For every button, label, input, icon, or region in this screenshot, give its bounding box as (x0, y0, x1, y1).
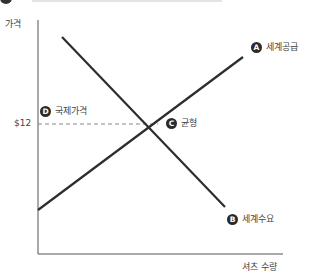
badge-b-icon: B (227, 214, 238, 225)
supply-label: A세계공급 (251, 42, 298, 53)
badge-c-icon: C (166, 118, 177, 129)
y-tick-12: $12 (14, 118, 31, 129)
equilibrium-label: C균형 (166, 118, 197, 129)
supply-line (38, 57, 243, 210)
demand-label: B세계수요 (227, 214, 274, 225)
badge-a-icon: A (251, 42, 262, 53)
world-price-label: D국제가격 (40, 106, 87, 117)
y-axis-label: 가격 (5, 19, 21, 30)
x-axis-label: 셔츠 수량 (242, 262, 277, 273)
badge-d-icon: D (40, 106, 51, 117)
demand-line (62, 37, 225, 207)
